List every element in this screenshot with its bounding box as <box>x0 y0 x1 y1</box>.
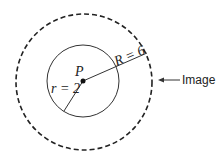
inner-radius-label: r = 2 <box>51 81 80 96</box>
center-point <box>81 79 86 84</box>
callout-label: Image <box>182 73 216 87</box>
diagram-canvas: P r = 2 R = 6 Image <box>0 0 220 151</box>
center-label: P <box>74 64 84 79</box>
callout-arrowhead-icon <box>158 78 164 83</box>
outer-radius-label: R = 6 <box>111 42 147 69</box>
